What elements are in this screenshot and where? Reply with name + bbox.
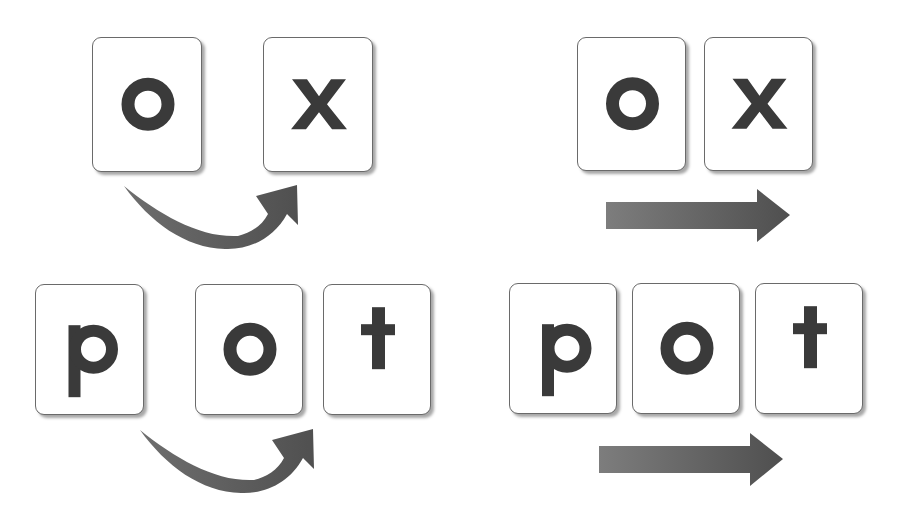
straight-arrow-icon [0,0,914,520]
